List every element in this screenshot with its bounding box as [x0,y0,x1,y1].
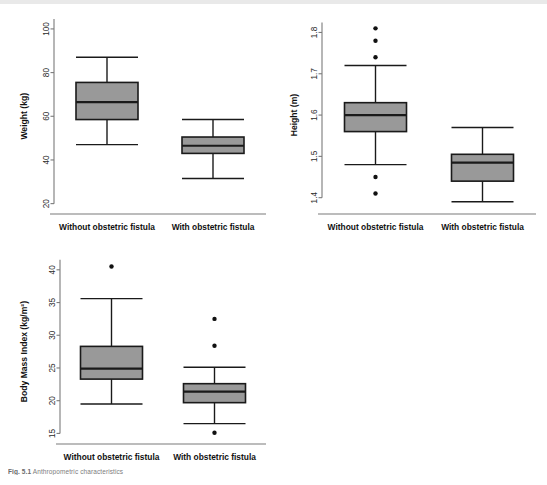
box-bmi-with-fistula [184,317,246,435]
panel-weight: 20406080100Weight (kg)Without obstetric … [8,10,270,242]
y-axis-tick-label: 1.7 [311,68,320,80]
box-weight-without-fistula [76,57,138,144]
panel-bmi: 152025303540Body Mass Index (kg/m²)Witho… [8,252,270,470]
y-axis-tick-label: 35 [49,298,58,308]
y-axis-tick-label: 40 [49,265,58,275]
outlier-point [109,264,113,268]
y-axis-title: Body Mass Index (kg/m²) [19,301,29,402]
y-axis-tick-label: 25 [49,363,58,373]
boxplot-bmi: 152025303540Body Mass Index (kg/m²)Witho… [8,252,270,470]
boxplot-height: 1.41.51.61.71.8Height (m)Without obstetr… [278,10,540,242]
boxplot-weight: 20406080100Weight (kg)Without obstetric … [8,10,270,242]
outlier-point [212,344,216,348]
outlier-point [373,175,377,179]
figure-caption-prefix: Fig. 5.1 [8,468,31,475]
category-label: With obstetric fistula [173,452,256,462]
y-axis-tick-label: 20 [43,199,52,209]
category-label: With obstetric fistula [172,222,255,232]
y-axis-tick-label: 20 [49,396,58,406]
y-axis-tick-label: 40 [43,155,52,165]
y-axis-tick-label: 1.5 [311,150,320,162]
outlier-point [373,26,377,30]
outlier-point [212,431,216,435]
figure-caption: Fig. 5.1 Anthropometric characteristics [8,468,438,475]
box-bmi-without-fistula [81,264,143,404]
figure-caption-text: Anthropometric characteristics [33,468,123,475]
y-axis-tick-label: 30 [49,330,58,340]
box-weight-with-fistula [182,120,244,179]
y-axis-tick-label: 60 [43,111,52,121]
box-body [345,103,407,132]
category-label: Without obstetric fistula [328,222,424,232]
outlier-point [373,191,377,195]
y-axis-tick-label: 1.6 [311,109,320,121]
y-axis-title: Weight (kg) [19,93,29,140]
outlier-point [212,317,216,321]
y-axis-tick-label: 100 [43,22,52,36]
category-label: Without obstetric fistula [64,452,160,462]
y-axis-tick-label: 1.4 [311,192,320,204]
box-body [81,346,143,379]
y-axis-title: Height (m) [289,94,299,137]
y-axis-tick-label: 80 [43,68,52,78]
category-label: Without obstetric fistula [59,222,155,232]
outlier-point [373,55,377,59]
boxplot-figure: 20406080100Weight (kg)Without obstetric … [0,0,547,485]
box-height-with-fistula [452,127,514,201]
y-axis-tick-label: 15 [49,428,58,438]
box-body [184,384,246,403]
box-body [452,154,514,181]
box-height-without-fistula [345,26,407,196]
category-label: With obstetric fistula [441,222,524,232]
outlier-point [373,39,377,43]
panel-height: 1.41.51.61.71.8Height (m)Without obstetr… [278,10,540,242]
y-axis-tick-label: 1.8 [311,26,320,38]
